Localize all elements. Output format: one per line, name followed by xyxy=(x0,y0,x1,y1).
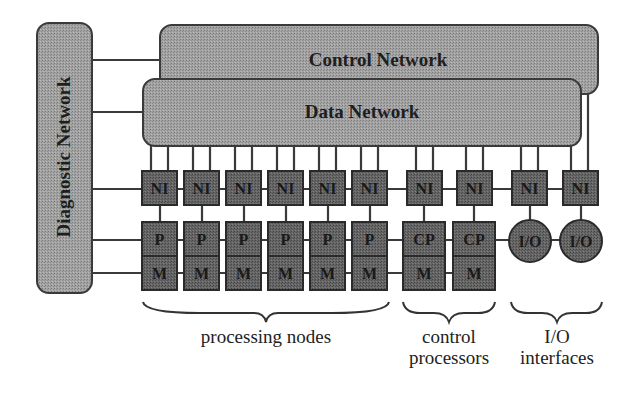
ni-box: NI xyxy=(184,171,219,205)
svg-text:NI: NI xyxy=(466,180,484,197)
svg-text:NI: NI xyxy=(361,180,379,197)
caption-control-line1: control xyxy=(422,326,476,347)
ni-box: NI xyxy=(226,171,261,205)
caption-processing-nodes: processing nodes xyxy=(201,326,331,347)
control-processor-node: CP M xyxy=(403,222,445,290)
svg-text:M: M xyxy=(194,265,209,282)
architecture-diagram: Diagnostic Network Control Network Data … xyxy=(0,0,633,396)
diagnostic-network: Diagnostic Network xyxy=(37,23,92,293)
svg-text:P: P xyxy=(197,231,207,248)
brace-processing xyxy=(143,302,389,322)
caption-io-line2: interfaces xyxy=(520,347,594,368)
brace-control xyxy=(403,302,495,322)
brace-io xyxy=(511,302,602,322)
caption-control-line2: processors xyxy=(409,347,489,368)
svg-text:M: M xyxy=(416,265,431,282)
diagnostic-network-label: Diagnostic Network xyxy=(53,76,74,237)
svg-text:M: M xyxy=(362,265,377,282)
group-captions: processing nodes control processors I/O … xyxy=(201,326,594,368)
svg-text:NI: NI xyxy=(193,180,211,197)
svg-text:I/O: I/O xyxy=(569,233,592,250)
data-network: Data Network xyxy=(143,79,581,146)
svg-text:P: P xyxy=(281,231,291,248)
svg-text:NI: NI xyxy=(319,180,337,197)
processing-node: P M xyxy=(142,222,177,290)
data-network-label: Data Network xyxy=(305,101,420,122)
svg-text:P: P xyxy=(155,231,165,248)
svg-text:M: M xyxy=(236,265,251,282)
ni-box: NI xyxy=(142,171,177,205)
processing-node: P M xyxy=(268,222,303,290)
svg-text:NI: NI xyxy=(521,180,539,197)
io-node: I/O xyxy=(560,220,602,262)
processing-node: P M xyxy=(226,222,261,290)
ni-box: NI xyxy=(407,171,442,205)
svg-text:M: M xyxy=(320,265,335,282)
io-node: I/O xyxy=(509,220,551,262)
ni-box: NI xyxy=(268,171,303,205)
group-braces xyxy=(143,302,602,322)
svg-text:M: M xyxy=(278,265,293,282)
svg-text:M: M xyxy=(466,265,481,282)
control-processor-node: CP M xyxy=(453,222,495,290)
svg-text:NI: NI xyxy=(416,180,434,197)
svg-text:CP: CP xyxy=(413,231,435,248)
svg-text:NI: NI xyxy=(277,180,295,197)
ni-box: NI xyxy=(512,171,547,205)
caption-io-line1: I/O xyxy=(544,326,569,347)
network-interfaces: NI NI NI NI NI NI NI NI NI NI xyxy=(142,171,598,205)
processing-node: P M xyxy=(310,222,345,290)
control-network-label: Control Network xyxy=(309,49,448,70)
ni-box: NI xyxy=(457,171,492,205)
svg-text:NI: NI xyxy=(151,180,169,197)
svg-text:P: P xyxy=(323,231,333,248)
svg-text:NI: NI xyxy=(235,180,253,197)
svg-text:NI: NI xyxy=(572,180,590,197)
processing-node: P M xyxy=(184,222,219,290)
svg-text:P: P xyxy=(239,231,249,248)
ni-to-node-links xyxy=(160,205,581,222)
svg-text:I/O: I/O xyxy=(518,233,541,250)
ni-box: NI xyxy=(563,171,598,205)
svg-text:M: M xyxy=(152,265,167,282)
ni-box: NI xyxy=(352,171,387,205)
processing-node: P M xyxy=(352,222,387,290)
ni-box: NI xyxy=(310,171,345,205)
svg-text:P: P xyxy=(365,231,375,248)
svg-text:CP: CP xyxy=(463,231,485,248)
processing-nodes: P M P M P M P M P M P M xyxy=(142,222,387,290)
control-processors: CP M CP M xyxy=(403,222,495,290)
network-to-ni-links xyxy=(151,146,538,172)
